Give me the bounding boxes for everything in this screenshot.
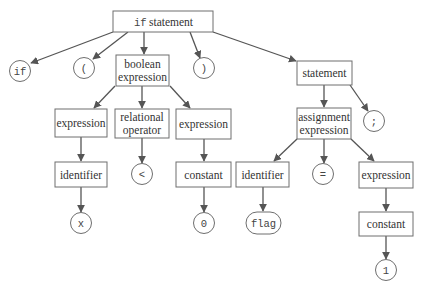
node-relational-operator-line2: operator (123, 124, 161, 137)
node-constant-1-label: constant (184, 169, 223, 181)
edge-stmt-semicolon (350, 85, 368, 111)
node-relational-operator-line1: relational (120, 111, 163, 123)
node-if-keyword: if (10, 61, 31, 82)
node-less-than: < (132, 164, 153, 185)
edge-root-statement (213, 32, 296, 61)
node-relational-operator: relational operator (115, 109, 169, 138)
node-one: 1 (376, 260, 397, 281)
node-one-label: 1 (383, 265, 389, 277)
edge-bool-expr2 (170, 86, 190, 108)
node-zero-label: 0 (201, 218, 207, 230)
node-statement: statement (297, 61, 352, 85)
node-identifier-1: identifier (55, 162, 107, 187)
node-expression-2: expression (176, 109, 231, 139)
node-right-paren: ) (194, 58, 215, 79)
node-expression-1: expression (55, 109, 107, 137)
node-identifier-2: identifier (236, 162, 289, 187)
node-constant-2: constant (359, 212, 413, 236)
node-x: x (71, 213, 92, 234)
node-expression-2-label: expression (179, 118, 228, 131)
node-zero: 0 (194, 213, 215, 234)
node-assignment-expression-line1: assignment (298, 111, 351, 124)
node-x-label: x (78, 218, 84, 230)
node-semicolon: ; (364, 111, 385, 132)
node-statement-label: statement (302, 67, 347, 79)
node-if-statement-keyword: if (134, 17, 147, 29)
node-boolean-expression: boolean expression (116, 55, 169, 86)
node-flag: flag (246, 212, 281, 234)
parse-tree-diagram: if statement if ( boolean expression ) s… (0, 0, 421, 290)
node-assignment-expression: assignment expression (297, 108, 351, 139)
node-expression-1-label: expression (56, 117, 105, 130)
node-if-statement: if statement (113, 11, 213, 32)
node-expression-3: expression (359, 162, 413, 188)
node-identifier-1-label: identifier (60, 169, 102, 181)
node-left-paren: ( (74, 58, 95, 79)
edge-assign-expr3 (351, 139, 374, 161)
node-constant-1: constant (176, 162, 231, 187)
node-right-paren-label: ) (201, 63, 207, 75)
node-if-statement-label: statement (149, 16, 194, 28)
edge-assign-ident2 (274, 139, 297, 161)
edge-bool-expr1 (94, 86, 115, 108)
node-identifier-2-label: identifier (241, 169, 283, 181)
edge-root-if (31, 32, 113, 63)
node-flag-label: flag (251, 218, 276, 230)
node-assignment-expression-line2: expression (299, 124, 348, 137)
node-boolean-expression-line1: boolean (124, 58, 161, 70)
node-equals-label: = (320, 169, 326, 181)
node-left-paren-label: ( (81, 63, 87, 75)
node-constant-2-label: constant (367, 218, 406, 230)
node-if-keyword-label: if (14, 66, 27, 78)
edge-root-rparen (190, 32, 200, 58)
node-boolean-expression-line2: expression (118, 71, 167, 84)
node-semicolon-label: ; (371, 116, 377, 128)
node-expression-3-label: expression (361, 169, 410, 182)
node-equals: = (313, 164, 334, 185)
node-less-than-label: < (139, 169, 145, 181)
